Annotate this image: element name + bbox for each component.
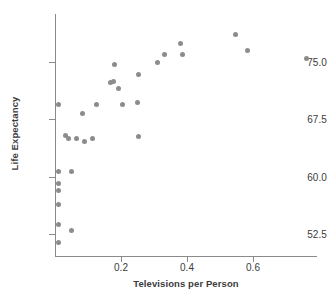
scatter-plot-figure: 52.560.067.575.0 0.20.40.6 Televisions p…	[0, 0, 327, 295]
data-point	[178, 41, 183, 46]
data-point	[56, 102, 61, 107]
data-point	[56, 181, 61, 186]
y-tick-mark	[49, 234, 56, 235]
data-point	[116, 86, 121, 91]
data-point	[112, 62, 117, 67]
data-point	[56, 202, 61, 207]
y-tick-label: 75.0	[279, 57, 327, 68]
y-tick-label: 52.5	[279, 229, 327, 240]
data-point	[162, 52, 167, 57]
data-point	[180, 52, 185, 57]
data-point	[90, 136, 95, 141]
data-point	[80, 111, 85, 116]
data-point	[69, 228, 74, 233]
plot-area: 52.560.067.575.0 0.20.40.6 Televisions p…	[0, 0, 327, 295]
x-tick-label: 0.4	[167, 262, 207, 273]
y-tick-label: 67.5	[279, 114, 327, 125]
data-point	[82, 139, 87, 144]
x-tick-label: 0.6	[233, 262, 273, 273]
y-tick-mark	[49, 177, 56, 178]
y-tick-mark	[49, 62, 56, 63]
data-point	[56, 188, 61, 193]
data-point	[74, 136, 79, 141]
x-axis-line	[55, 256, 317, 257]
y-axis-title: Life Expectancy	[9, 69, 20, 199]
data-point	[135, 100, 140, 105]
data-point	[233, 32, 238, 37]
data-point	[245, 48, 250, 53]
data-point	[136, 72, 141, 77]
y-tick-mark	[49, 119, 56, 120]
x-axis-title: Televisions per Person	[55, 278, 317, 289]
data-point	[66, 136, 71, 141]
y-tick-label: 60.0	[279, 171, 327, 182]
data-point	[120, 102, 125, 107]
data-point	[94, 102, 99, 107]
y-axis-line	[55, 14, 56, 256]
data-point	[111, 79, 116, 84]
data-point	[56, 222, 61, 227]
data-point	[155, 60, 160, 65]
x-tick-label: 0.2	[101, 262, 141, 273]
data-point	[69, 169, 74, 174]
data-point	[136, 134, 141, 139]
data-point	[56, 169, 61, 174]
data-point	[56, 240, 61, 245]
